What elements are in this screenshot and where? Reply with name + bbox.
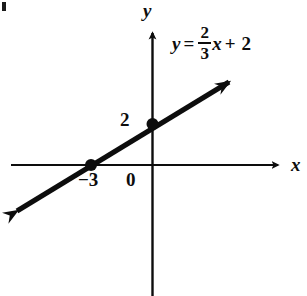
equation-lhs: y [172, 34, 180, 53]
graph-figure: y x 2 −3 0 y = 2 3 x + 2 [0, 0, 307, 296]
equation-variable: x [212, 34, 222, 53]
y-axis-label: y [143, 1, 151, 20]
point-y-intercept [147, 118, 159, 130]
coordinate-plane-svg [0, 0, 307, 296]
fraction-numerator: 2 [200, 24, 211, 42]
tick-label-y-intercept: 2 [120, 110, 130, 129]
equation-equals-sign: = [183, 34, 194, 53]
x-axis-label: x [291, 155, 301, 174]
equation-fraction: 2 3 [198, 24, 211, 62]
equation-constant: 2 [242, 34, 252, 53]
tick-label-x-intercept: −3 [78, 170, 98, 189]
fraction-denominator: 3 [200, 44, 211, 62]
line-y-equals-two-thirds-x-plus-two [17, 82, 229, 211]
origin-label: 0 [126, 170, 136, 189]
equation-annotation: y = 2 3 x + 2 [172, 24, 254, 62]
equation-plus-sign: + [225, 34, 236, 53]
